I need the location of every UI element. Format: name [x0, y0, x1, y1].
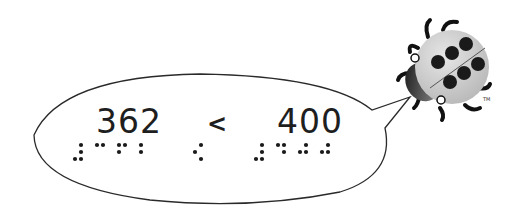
speech-bubble-graphic: TM: [0, 0, 523, 216]
braille-dot: [199, 157, 203, 161]
braille-dot: [282, 143, 286, 147]
braille-dot: [79, 143, 83, 147]
braille-dot: [320, 150, 324, 154]
braille-dot: [123, 143, 127, 147]
right-number: 400: [277, 102, 343, 142]
comparison-operator: <: [207, 104, 227, 144]
braille-dot: [101, 143, 105, 147]
braille-dot: [73, 157, 77, 161]
braille-dot: [254, 157, 258, 161]
braille-dot: [260, 157, 264, 161]
braille-dot: [117, 143, 121, 147]
braille-dot: [326, 150, 330, 154]
trademark-label: TM: [482, 96, 490, 102]
braille-dot: [298, 150, 302, 154]
braille-dot: [260, 143, 264, 147]
braille-dot: [117, 150, 121, 154]
braille-dot: [282, 150, 286, 154]
illustration: TM 362 < 400: [0, 0, 523, 216]
braille-dot: [260, 150, 264, 154]
ladybug-icon: TM: [398, 20, 490, 120]
braille-dot: [199, 143, 203, 147]
braille-dot: [79, 150, 83, 154]
braille-dot: [276, 143, 280, 147]
braille-dot: [95, 143, 99, 147]
braille-dot: [304, 150, 308, 154]
braille-dot: [193, 150, 197, 154]
braille-dot: [326, 143, 330, 147]
braille-dot: [139, 143, 143, 147]
left-number: 362: [96, 102, 162, 142]
braille-dot: [304, 143, 308, 147]
braille-dot: [139, 150, 143, 154]
braille-dot: [79, 157, 83, 161]
